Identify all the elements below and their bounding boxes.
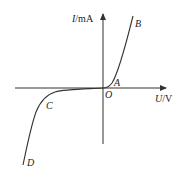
point-a-label: A bbox=[113, 77, 121, 88]
point-b-label: B bbox=[135, 18, 141, 29]
point-c-label: C bbox=[46, 100, 53, 111]
point-d-label: D bbox=[26, 157, 35, 168]
reverse-curve bbox=[23, 88, 103, 165]
x-axis-label: U/V bbox=[155, 93, 173, 104]
y-axis-label: I/mA bbox=[71, 13, 94, 24]
diode-iv-diagram: I/mA B A O U/V C D bbox=[0, 0, 187, 175]
origin-label: O bbox=[105, 89, 112, 100]
